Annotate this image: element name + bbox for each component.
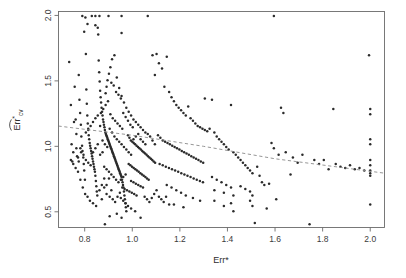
- data-point: [104, 129, 107, 132]
- data-point: [114, 120, 117, 123]
- y-tick-label: 2.0: [43, 9, 53, 21]
- x-tick-label: 1.4: [222, 234, 234, 244]
- data-point: [185, 152, 188, 155]
- data-point: [122, 112, 125, 115]
- data-point: [146, 15, 149, 18]
- data-point: [139, 138, 142, 141]
- data-point: [368, 54, 371, 57]
- data-point: [101, 114, 104, 117]
- data-point: [119, 192, 122, 195]
- data-point: [149, 135, 152, 138]
- data-point: [135, 121, 138, 124]
- data-point: [131, 126, 134, 129]
- data-point: [160, 198, 163, 201]
- data-point: [97, 114, 100, 117]
- data-point: [130, 154, 133, 157]
- data-point: [256, 165, 259, 168]
- data-point: [82, 186, 85, 189]
- data-point: [102, 121, 105, 124]
- data-point: [129, 123, 132, 126]
- data-point: [254, 222, 257, 225]
- data-point: [89, 125, 92, 128]
- data-point: [178, 148, 181, 151]
- data-point: [158, 163, 161, 166]
- data-point: [92, 202, 95, 205]
- data-point: [70, 104, 73, 107]
- data-point: [110, 82, 113, 85]
- data-point: [206, 130, 209, 133]
- data-point: [244, 188, 247, 191]
- data-point: [151, 139, 154, 142]
- data-point: [223, 192, 226, 195]
- data-point: [87, 122, 90, 125]
- data-point: [175, 104, 178, 107]
- data-point: [128, 137, 131, 140]
- data-point: [127, 151, 130, 154]
- data-point: [223, 143, 226, 146]
- data-point: [96, 194, 99, 197]
- data-point: [176, 147, 179, 150]
- data-point: [251, 172, 254, 175]
- data-point: [112, 176, 115, 179]
- data-point: [81, 144, 84, 147]
- data-point: [211, 99, 214, 102]
- data-point: [369, 108, 372, 111]
- data-point: [194, 122, 197, 125]
- data-point: [124, 173, 127, 176]
- data-point: [251, 205, 254, 208]
- data-point: [246, 167, 249, 170]
- data-point: [161, 67, 164, 70]
- data-point: [323, 159, 326, 162]
- data-point: [158, 195, 161, 198]
- data-point: [200, 160, 203, 163]
- data-point: [98, 80, 101, 83]
- data-point: [80, 151, 83, 154]
- data-point: [127, 120, 130, 123]
- data-point: [82, 154, 85, 157]
- x-tick-label: 1.8: [317, 234, 329, 244]
- data-point: [175, 189, 178, 192]
- data-point: [86, 195, 89, 198]
- y-tick-label: 1.0: [43, 140, 53, 152]
- data-point: [195, 158, 198, 161]
- data-point: [202, 161, 205, 164]
- data-point: [223, 205, 226, 208]
- data-point: [187, 105, 190, 108]
- data-point: [182, 112, 185, 115]
- data-point: [89, 199, 92, 202]
- data-point: [237, 156, 240, 159]
- data-point: [183, 173, 186, 176]
- data-point: [102, 118, 105, 121]
- data-point: [215, 178, 218, 181]
- data-point: [82, 156, 85, 159]
- data-point: [192, 120, 195, 123]
- data-point: [104, 92, 107, 95]
- data-point: [180, 172, 183, 175]
- data-point: [204, 97, 207, 100]
- data-point: [270, 142, 273, 145]
- data-point: [197, 159, 200, 162]
- data-point: [114, 201, 117, 204]
- data-point: [101, 198, 104, 201]
- data-point: [82, 163, 85, 166]
- data-point: [369, 164, 372, 167]
- data-point: [84, 16, 87, 19]
- data-point: [116, 138, 119, 141]
- data-point: [155, 53, 158, 56]
- data-point: [75, 147, 78, 150]
- data-point: [87, 161, 90, 164]
- data-point: [135, 182, 138, 185]
- data-point: [189, 117, 192, 120]
- data-point: [104, 104, 107, 107]
- y-axis-title-base: Err: [12, 119, 22, 131]
- data-point: [249, 199, 252, 202]
- data-point: [369, 159, 372, 162]
- data-point: [334, 163, 337, 166]
- data-point: [142, 141, 145, 144]
- data-point: [137, 133, 140, 136]
- data-point: [132, 181, 135, 184]
- data-point: [139, 126, 142, 129]
- data-point: [108, 72, 111, 75]
- data-point: [192, 197, 195, 200]
- data-point: [99, 125, 102, 128]
